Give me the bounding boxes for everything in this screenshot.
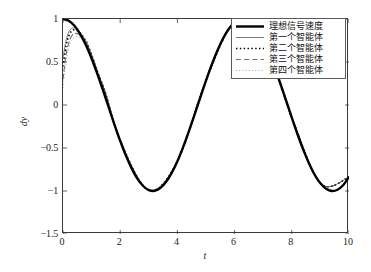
x-tick-label: 4 [174, 236, 179, 247]
legend-item-4[interactable]: 第三个智能体 [235, 54, 342, 65]
legend-line-sample-1 [235, 21, 265, 32]
y-tick-label: −1 [48, 185, 58, 196]
y-axis-tick-labels: 10.50−0.5−1−1.5 [26, 18, 58, 233]
y-tick-label: 0 [53, 99, 58, 110]
legend-line-sample-3 [235, 43, 265, 54]
legend-label-5: 第四个智能体 [269, 65, 323, 76]
legend-label-4: 第三个智能体 [269, 54, 323, 65]
y-tick-label: −1.5 [41, 228, 58, 239]
legend: 理想信号速度第一个智能体第二个智能体第三个智能体第四个智能体 [231, 18, 346, 79]
y-tick-label: 1 [53, 13, 58, 24]
legend-label-1: 理想信号速度 [269, 21, 323, 32]
x-axis-label: t [62, 250, 348, 261]
legend-item-1[interactable]: 理想信号速度 [235, 21, 342, 32]
x-tick-label: 10 [343, 236, 353, 247]
x-axis-tick-labels: 0246810 [62, 236, 348, 250]
legend-item-5[interactable]: 第四个智能体 [235, 65, 342, 76]
legend-item-3[interactable]: 第二个智能体 [235, 43, 342, 54]
chart-figure: 10.50−0.5−1−1.5 dy 0246810 t 理想信号速度第一个智能… [0, 0, 371, 272]
legend-label-3: 第二个智能体 [269, 43, 323, 54]
x-tick-label: 8 [288, 236, 293, 247]
legend-line-sample-4 [235, 54, 265, 65]
x-tick-label: 0 [60, 236, 65, 247]
legend-line-sample-5 [235, 65, 265, 76]
legend-item-2[interactable]: 第一个智能体 [235, 32, 342, 43]
x-tick-label: 6 [231, 236, 236, 247]
x-tick-label: 2 [117, 236, 122, 247]
legend-label-2: 第一个智能体 [269, 32, 323, 43]
legend-line-sample-2 [235, 32, 265, 43]
y-tick-label: −0.5 [41, 142, 58, 153]
y-axis-label: dy [18, 109, 29, 135]
y-tick-label: 0.5 [46, 56, 58, 67]
